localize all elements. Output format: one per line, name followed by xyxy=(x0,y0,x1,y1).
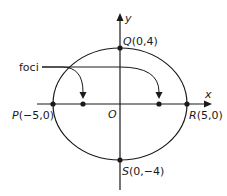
origin-label: O xyxy=(108,108,117,121)
point-Q-name: Q xyxy=(123,35,132,48)
point-Q-label: Q(0,4) xyxy=(123,35,158,48)
point-P-coords: (−5,0) xyxy=(19,109,54,122)
point-P xyxy=(50,101,55,106)
point-S-coords: (0,−4) xyxy=(129,165,164,178)
y-axis-label: y xyxy=(124,12,132,25)
point-S-label: S(0,−4) xyxy=(122,165,164,178)
point-R-label: R(5,0) xyxy=(189,109,223,122)
point-S xyxy=(117,157,122,162)
point-Q xyxy=(117,45,122,50)
point-P-label: P(−5,0) xyxy=(12,109,54,122)
point-Q-coords: (0,4) xyxy=(132,35,158,48)
foci-arrow-right-icon xyxy=(156,92,163,99)
foci-label: foci xyxy=(19,61,39,74)
point-R-coords: (5,0) xyxy=(197,109,223,122)
point-S-name: S xyxy=(122,165,129,178)
x-axis-arrow-icon xyxy=(204,101,212,108)
x-axis-label: x xyxy=(204,88,212,101)
point-R xyxy=(184,101,189,106)
ellipse-diagram: y x O Q(0,4) P(−5,0) R(5,0) S(0,−4) foci xyxy=(0,0,227,196)
foci-leader-left xyxy=(42,67,83,92)
point-R-name: R xyxy=(189,109,197,122)
focus-left xyxy=(80,101,85,106)
y-axis-arrow-icon xyxy=(117,13,124,21)
foci-arrow-left-icon xyxy=(80,92,87,99)
focus-right xyxy=(156,101,161,106)
